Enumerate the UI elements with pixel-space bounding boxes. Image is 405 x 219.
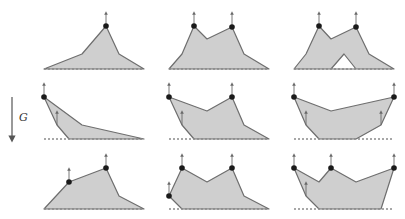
contact-vertex — [66, 179, 72, 185]
contact-vertex — [391, 94, 397, 100]
contact-vertex — [103, 23, 109, 29]
contact-vertex — [229, 165, 235, 171]
panel-r2c2 — [166, 84, 269, 139]
polygon-shape — [294, 26, 394, 69]
diagram-canvas: G — [0, 0, 405, 219]
configuration-grid — [41, 13, 397, 209]
contact-vertex — [179, 165, 185, 171]
polygon-shape — [169, 26, 269, 69]
contact-vertex — [229, 24, 235, 30]
contact-vertex — [291, 94, 297, 100]
polygon-shape — [169, 168, 269, 209]
panel-r1c3 — [294, 13, 394, 69]
contact-vertex — [191, 23, 197, 29]
polygon-shape — [294, 168, 394, 209]
polygon-shape — [44, 168, 144, 209]
polygon-shape — [169, 97, 269, 139]
contact-vertex — [41, 94, 47, 100]
panel-r3c3 — [291, 155, 397, 209]
polygon-shape — [44, 97, 144, 139]
contact-vertex — [166, 94, 172, 100]
polygon-shape — [44, 26, 144, 69]
panel-r2c3 — [291, 84, 397, 139]
panel-r3c1 — [44, 155, 144, 209]
contact-vertex — [316, 23, 322, 29]
contact-vertex — [229, 94, 235, 100]
contact-vertex — [103, 165, 109, 171]
gravity-indicator: G — [12, 97, 28, 139]
panel-r1c1 — [44, 13, 144, 69]
contact-vertex — [353, 24, 359, 30]
panel-r3c2 — [166, 155, 269, 209]
panel-r2c1 — [41, 84, 144, 139]
contact-vertex — [291, 165, 297, 171]
contact-vertex — [391, 165, 397, 171]
gravity-label: G — [19, 111, 28, 124]
contact-vertex — [166, 193, 172, 199]
polygon-shape — [294, 97, 394, 139]
contact-vertex — [328, 165, 334, 171]
panel-r1c2 — [169, 13, 269, 69]
